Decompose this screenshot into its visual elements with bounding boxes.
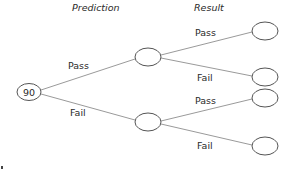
label-pass-result-pass: Pass	[195, 27, 216, 38]
result-pass-pass-node	[252, 22, 278, 40]
root-node-value: 90	[23, 87, 35, 98]
header-prediction: Prediction	[72, 2, 120, 13]
corner-mark	[1, 166, 3, 169]
header-result: Result	[194, 2, 225, 13]
probability-tree-diagram: Prediction Result Pass Fail Pass Fail Pa…	[0, 0, 295, 170]
result-fail-pass-node	[252, 89, 278, 107]
edge-prediction-fail	[41, 94, 135, 120]
result-fail-fail-node	[252, 137, 278, 155]
label-fail-result-fail: Fail	[197, 140, 213, 151]
prediction-pass-node	[135, 48, 161, 66]
label-prediction-fail: Fail	[70, 107, 86, 118]
label-pass-result-fail: Fail	[197, 72, 213, 83]
result-pass-fail-node	[252, 68, 278, 86]
label-fail-result-pass: Pass	[195, 95, 216, 106]
label-prediction-pass: Pass	[68, 60, 89, 71]
prediction-fail-node	[135, 113, 161, 131]
